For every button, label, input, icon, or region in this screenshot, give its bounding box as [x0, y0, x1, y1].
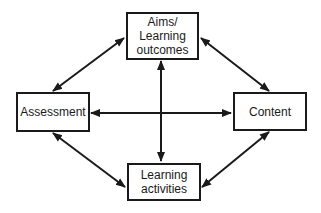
node-label: Learning activities — [141, 168, 188, 196]
node-assessment: Assessment — [16, 92, 90, 132]
arrow-aims-content — [201, 38, 269, 91]
arrow-assessment-activities — [53, 133, 125, 187]
alignment-diagram: Aims/ Learning outcomes Assessment Conte… — [0, 0, 321, 213]
node-label: Content — [249, 105, 291, 119]
node-label: Aims/ Learning outcomes — [136, 15, 188, 57]
node-label: Assessment — [20, 105, 85, 119]
node-aims-learning-outcomes: Aims/ Learning outcomes — [126, 12, 199, 60]
node-content: Content — [233, 92, 307, 131]
arrow-aims-assessment — [53, 38, 124, 91]
node-learning-activities: Learning activities — [127, 163, 201, 201]
arrow-content-activities — [202, 132, 269, 187]
